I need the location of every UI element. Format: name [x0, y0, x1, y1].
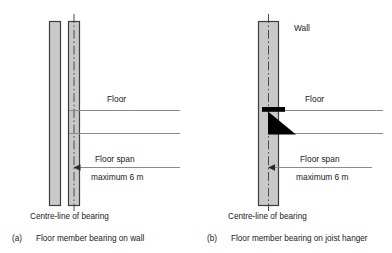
panel-b-wall-label: Wall: [294, 24, 310, 32]
figure-container: Floor Floor span maximum 6 m Centre-line…: [0, 0, 392, 253]
panel-b-centre-line-caption: Centre-line of bearing: [228, 213, 307, 221]
panel-a-caption: Floor member bearing on wall: [36, 235, 144, 243]
panel-b-caption: Floor member bearing on joist hanger: [231, 235, 368, 243]
panel-a-maximum-span-label: maximum 6 m: [91, 173, 144, 181]
panel-a-floor-span-label: Floor span: [95, 155, 135, 163]
joist-hanger-strap: [262, 107, 285, 112]
panel-b-maximum-span-label: maximum 6 m: [296, 173, 349, 181]
panel-a-floor-label: Floor: [107, 95, 126, 103]
panel-b-floor-label: Floor: [305, 95, 324, 103]
panel-b-index-label: (b): [207, 235, 217, 243]
panel-b-floor-span-label: Floor span: [300, 155, 340, 163]
panel-a-outer-leaf: [50, 22, 61, 206]
panel-a-index-label: (a): [12, 235, 22, 243]
panel-a-centre-line-caption: Centre-line of bearing: [30, 213, 109, 221]
